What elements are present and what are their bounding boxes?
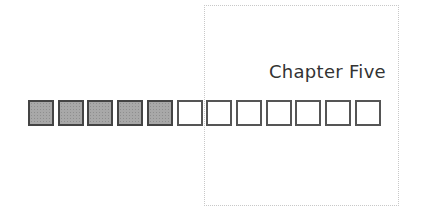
progress-cell-filled xyxy=(147,100,173,126)
progress-cell-filled xyxy=(87,100,113,126)
progress-cell-filled xyxy=(58,100,84,126)
progress-cell-empty xyxy=(355,100,381,126)
progress-cell-empty xyxy=(295,100,321,126)
progress-cell-empty xyxy=(236,100,262,126)
progress-cell-empty xyxy=(177,100,203,126)
progress-cell-filled xyxy=(117,100,143,126)
progress-cell-empty xyxy=(266,100,292,126)
progress-cell-empty xyxy=(325,100,351,126)
progress-cell-filled xyxy=(28,100,54,126)
progress-cell-empty xyxy=(206,100,232,126)
chapter-title: Chapter Five xyxy=(240,61,386,82)
